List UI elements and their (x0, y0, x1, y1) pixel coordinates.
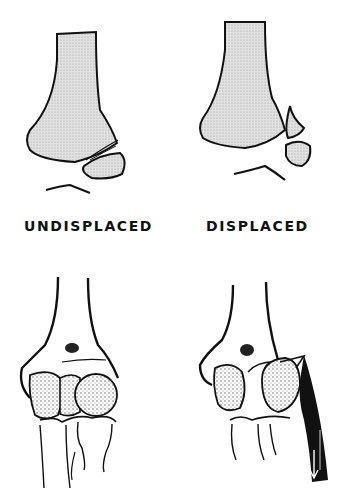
displaced-label: DISPLACED (206, 218, 309, 234)
undisplaced-lateral-view (27, 32, 125, 193)
illustrations (0, 0, 347, 489)
fracture-diagram: UNDISPLACED DISPLACED (0, 0, 347, 489)
displaced-lateral-view (200, 22, 310, 180)
undisplaced-label: UNDISPLACED (24, 218, 153, 234)
displaced-anterior-view (200, 282, 328, 482)
undisplaced-anterior-view (21, 277, 118, 488)
